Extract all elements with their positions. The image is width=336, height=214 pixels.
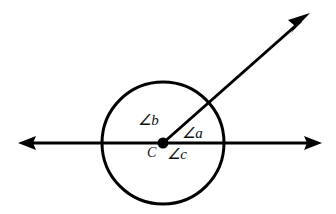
geometry-diagram (0, 0, 336, 214)
angle-b-label: ∠b (138, 113, 159, 128)
angle-c-label: ∠c (167, 147, 187, 162)
angle-a-label: ∠a (182, 126, 203, 141)
vertex-c-label: C (147, 146, 157, 160)
